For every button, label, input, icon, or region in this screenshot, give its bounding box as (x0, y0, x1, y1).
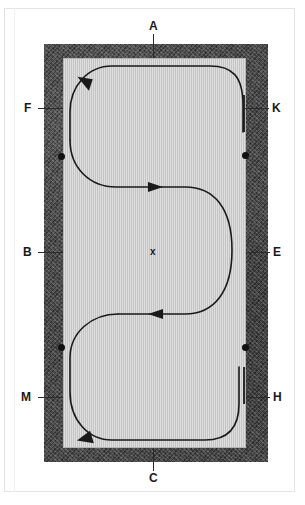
label-m: M (21, 391, 31, 403)
label-c: C (149, 472, 158, 484)
label-k: K (272, 102, 281, 114)
figure-canvas: A F K B E M H C x (0, 0, 305, 505)
arrow-upper-left (77, 75, 93, 91)
label-b: B (23, 246, 32, 258)
label-x-interior: x (150, 246, 156, 258)
label-f: F (24, 102, 32, 114)
label-h: H (273, 391, 282, 403)
label-e: E (273, 246, 281, 258)
arrow-middle-right (148, 182, 163, 192)
arrow-middle-left (148, 309, 163, 319)
label-a: A (149, 20, 158, 32)
